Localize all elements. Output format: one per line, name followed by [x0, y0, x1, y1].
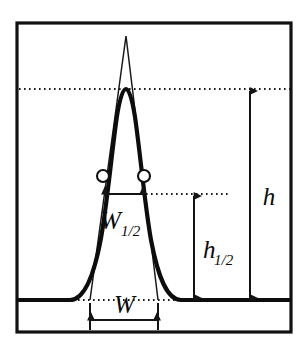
half-height-label-subscript: 1/2 — [214, 252, 234, 268]
peak-parameters-diagram: h h 1/2 W 1/2 W — [0, 0, 308, 344]
half-width-label-base: W — [100, 207, 123, 234]
peak-height-label: h — [263, 183, 276, 210]
base-width-label: W — [114, 291, 137, 318]
right-inflection-marker — [138, 170, 150, 182]
figure-container: h h 1/2 W 1/2 W — [0, 0, 308, 344]
left-inflection-marker — [97, 170, 109, 182]
half-width-label-subscript: 1/2 — [121, 223, 141, 239]
